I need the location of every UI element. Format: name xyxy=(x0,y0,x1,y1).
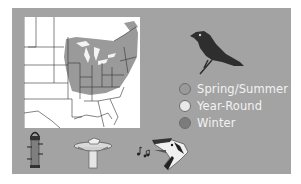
bird-head-icon xyxy=(150,136,190,172)
bird-silhouette-icon xyxy=(182,26,252,78)
legend-item-spring-summer: Spring/Summer xyxy=(179,80,288,97)
music-notes-icon xyxy=(136,146,150,158)
legend-label: Year-Round xyxy=(197,99,262,113)
legend-item-year-round: Year-Round xyxy=(179,97,288,114)
bird-info-panel: Spring/Summer Year-Round Winter xyxy=(12,8,291,174)
birdbath-icon xyxy=(72,134,114,170)
legend-swatch-spring-summer xyxy=(179,83,191,95)
legend-label: Spring/Summer xyxy=(197,82,288,96)
legend-swatch-year-round xyxy=(179,100,191,112)
legend-swatch-winter xyxy=(179,117,191,129)
range-map xyxy=(24,17,140,128)
legend-label: Winter xyxy=(197,116,236,130)
tube-feeder-icon xyxy=(24,130,46,170)
legend-item-winter: Winter xyxy=(179,114,288,131)
season-legend: Spring/Summer Year-Round Winter xyxy=(179,80,288,131)
